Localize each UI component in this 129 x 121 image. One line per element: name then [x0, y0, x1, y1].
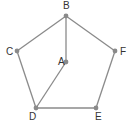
- nodes-group: ABCDEF: [6, 0, 126, 121]
- node-e: E: [94, 106, 102, 121]
- edge-a-d: [36, 62, 66, 108]
- node-a: A: [58, 56, 68, 67]
- node-dot-icon: [113, 49, 118, 54]
- node-b: B: [63, 0, 70, 18]
- node-dot-icon: [64, 14, 69, 19]
- node-c: C: [6, 46, 19, 57]
- node-f: F: [113, 46, 127, 57]
- edge-b-f: [66, 16, 115, 51]
- edge-e-f: [96, 51, 115, 108]
- node-dot-icon: [34, 106, 39, 111]
- node-dot-icon: [15, 49, 20, 54]
- node-label: A: [58, 56, 65, 67]
- node-d: D: [29, 106, 38, 121]
- edge-c-d: [17, 51, 36, 108]
- edge-b-c: [17, 16, 66, 51]
- node-label: F: [120, 46, 126, 57]
- node-label: E: [95, 111, 102, 121]
- graph-diagram: ABCDEF: [0, 0, 129, 121]
- node-dot-icon: [94, 106, 99, 111]
- node-label: D: [29, 111, 36, 121]
- node-label: B: [63, 0, 70, 11]
- node-label: C: [6, 46, 13, 57]
